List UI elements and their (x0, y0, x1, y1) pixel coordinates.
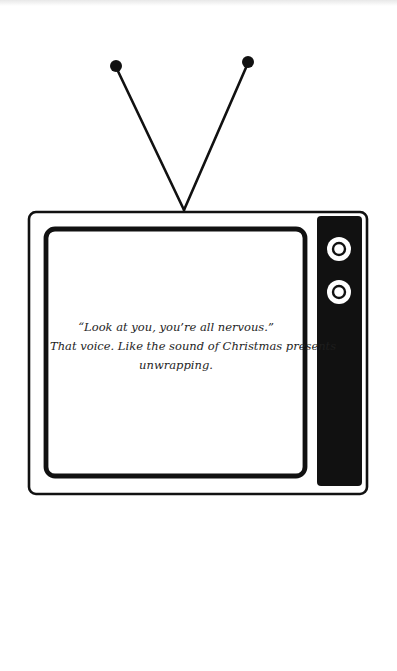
antenna-ball-left-icon (110, 60, 122, 72)
tv-screen-quote: “Look at you, you’re all nervous.” That … (50, 318, 302, 375)
quote-line-3: unwrapping. (50, 356, 302, 375)
quote-line-1: “Look at you, you’re all nervous.” (50, 318, 302, 337)
antenna-icon (110, 56, 254, 210)
knob-top-icon (327, 237, 351, 261)
antenna-ball-right-icon (242, 56, 254, 68)
knob-bottom-icon (327, 280, 351, 304)
quote-line-2: That voice. Like the sound of Christmas … (50, 337, 302, 356)
